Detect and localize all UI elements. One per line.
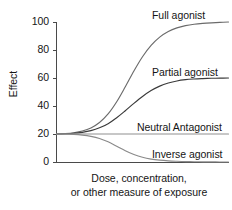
x-axis-label-line-2: or other measure of exposure bbox=[46, 185, 232, 199]
curve-label-partial-agonist: Partial agonist bbox=[152, 66, 218, 78]
x-axis-label: Dose, concentration, or other measure of… bbox=[46, 171, 232, 199]
ytick-label-100: 100 bbox=[23, 16, 49, 27]
curve-label-inverse-agonist: Inverse agonist bbox=[152, 148, 222, 160]
dose-response-chart: 100 80 60 40 20 0 Effect Full agonist Pa… bbox=[0, 0, 232, 210]
curve-group bbox=[57, 22, 229, 162]
ytick-label-20: 20 bbox=[23, 128, 49, 139]
curve-label-full-agonist: Full agonist bbox=[152, 9, 205, 21]
curve-label-neutral-antagonist: Neutral Antagonist bbox=[137, 121, 222, 133]
y-axis-label: Effect bbox=[7, 54, 19, 114]
ytick-label-80: 80 bbox=[23, 44, 49, 55]
ytick-label-60: 60 bbox=[23, 72, 49, 83]
y-axis-ticks bbox=[53, 23, 57, 163]
ytick-label-40: 40 bbox=[23, 100, 49, 111]
ytick-label-0: 0 bbox=[23, 156, 49, 167]
x-axis-label-line-1: Dose, concentration, bbox=[46, 171, 232, 185]
